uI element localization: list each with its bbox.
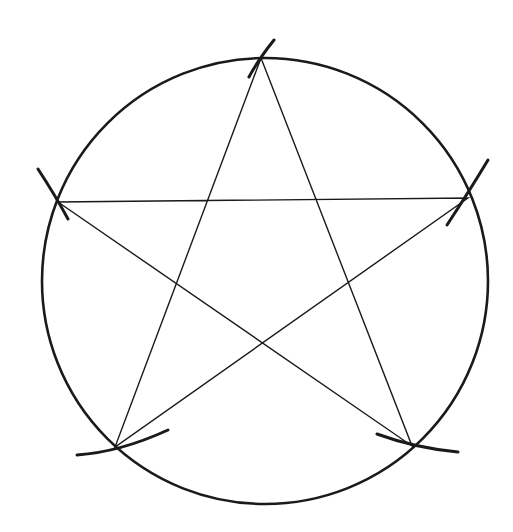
circumscribed-circle — [42, 58, 488, 504]
pentagram-star — [58, 58, 468, 447]
pentagram-diagram — [0, 0, 513, 532]
compass-arc-right — [447, 160, 488, 225]
compass-arc-marks — [38, 40, 488, 455]
